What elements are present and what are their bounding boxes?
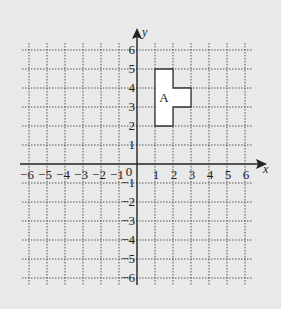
x-tick-label: 5 [225, 167, 232, 182]
shape-label: A [159, 90, 169, 105]
y-tick-label: −4 [121, 232, 135, 247]
x-tick-label: 2 [171, 167, 178, 182]
y-tick-label: −6 [121, 270, 135, 285]
y-tick-label: −2 [121, 194, 135, 209]
y-tick-label: 1 [129, 137, 136, 152]
y-axis-label: y [141, 25, 148, 39]
shapes-layer: A [155, 69, 191, 126]
y-tick-label: 6 [129, 42, 136, 57]
y-tick-label: 3 [129, 99, 136, 114]
x-tick-label: −5 [38, 167, 52, 182]
y-tick-label: 4 [129, 80, 136, 95]
x-tick-label: −2 [92, 167, 106, 182]
coordinate-plane: A xy0−6−5−4−3−2−1123456654321−1−2−3−4−5−… [0, 0, 284, 316]
x-tick-label: −4 [56, 167, 70, 182]
tick-labels: xy0−6−5−4−3−2−1123456654321−1−2−3−4−5−6 [20, 25, 269, 285]
x-tick-label: 6 [243, 167, 250, 182]
y-tick-label: 5 [129, 61, 136, 76]
y-tick-label: −1 [121, 175, 135, 190]
x-tick-label: 1 [153, 167, 160, 182]
y-tick-label: −3 [121, 213, 135, 228]
x-axis-label: x [262, 162, 269, 176]
axes [20, 28, 267, 285]
y-tick-label: −5 [121, 251, 135, 266]
y-tick-label: 2 [129, 118, 136, 133]
x-tick-label: 3 [189, 167, 196, 182]
x-tick-label: −3 [74, 167, 88, 182]
x-tick-label: −6 [20, 167, 34, 182]
x-tick-label: 4 [207, 167, 214, 182]
